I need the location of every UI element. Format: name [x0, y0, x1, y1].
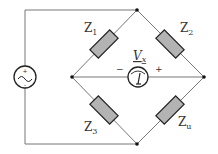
meter-label: Vx [133, 49, 147, 64]
source-plus: + [22, 67, 27, 74]
voltmeter-icon [128, 67, 148, 87]
z3-label: Z3 [84, 120, 97, 136]
meter-plus: + [155, 64, 163, 74]
z1-label: Z1 [84, 21, 97, 37]
ac-source-icon: + - [14, 66, 36, 88]
z2-label: Z2 [180, 21, 193, 37]
meter-minus: − [116, 64, 124, 74]
source-minus: - [24, 81, 26, 88]
zu-label: Zu [178, 115, 192, 131]
impedance-z3 [90, 96, 118, 124]
bridge-circuit-diagram: + - − + Vx Z1 Z2 Z3 Zu [0, 0, 218, 154]
